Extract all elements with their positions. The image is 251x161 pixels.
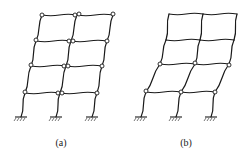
ground-hatch <box>210 118 212 121</box>
column <box>229 40 234 64</box>
column <box>166 14 169 40</box>
ground-hatch <box>143 118 145 121</box>
column <box>31 41 36 66</box>
column <box>36 15 42 41</box>
plastic-hinge-icon <box>95 91 99 95</box>
beam <box>36 40 71 42</box>
plastic-hinge-icon <box>100 64 104 68</box>
column <box>211 92 215 117</box>
plastic-hinge-icon <box>56 91 60 95</box>
plastic-hinge-icon <box>77 12 81 16</box>
column <box>200 14 203 40</box>
ground-hatch <box>172 118 174 121</box>
plastic-hinge-icon <box>29 63 33 67</box>
panel-b-story-mechanism-frame <box>134 13 237 121</box>
plastic-hinge-icon <box>144 89 148 93</box>
ground-hatch <box>23 118 25 121</box>
ground-hatch <box>169 118 171 121</box>
ground-hatch <box>175 118 177 121</box>
ground-hatch <box>55 118 57 121</box>
plastic-hinge-icon <box>111 12 115 16</box>
plastic-hinge-icon <box>179 90 183 94</box>
frame-diagram: (a) (b) <box>0 0 251 161</box>
plastic-hinge-icon <box>34 38 38 42</box>
plastic-hinge-icon <box>73 13 77 17</box>
beam <box>31 65 66 67</box>
column <box>97 66 102 93</box>
column <box>160 40 166 64</box>
column <box>195 40 200 64</box>
beam <box>66 65 102 67</box>
column <box>146 64 160 92</box>
beam <box>169 13 203 15</box>
beam <box>71 40 107 42</box>
panel-a-label: (a) <box>55 137 66 149</box>
beam <box>166 39 200 41</box>
column <box>234 14 237 40</box>
ground-hatch <box>137 118 139 121</box>
beam <box>203 13 237 15</box>
beam <box>42 14 77 16</box>
column <box>60 66 66 93</box>
column <box>107 15 113 41</box>
ground-hatch <box>17 118 19 121</box>
beam <box>195 63 229 65</box>
panel-a-beam-hinge-frame <box>14 12 115 121</box>
ground-hatch <box>91 118 93 121</box>
beam <box>77 14 113 16</box>
beam <box>160 63 195 65</box>
plastic-hinge-icon <box>62 64 66 68</box>
plastic-hinge-icon <box>40 13 44 17</box>
column <box>66 41 71 66</box>
column <box>102 41 107 66</box>
column <box>215 64 229 92</box>
plastic-hinge-icon <box>60 91 64 95</box>
ground-hatch <box>52 118 54 121</box>
ground-hatch <box>88 118 90 121</box>
plastic-hinge-icon <box>67 39 71 43</box>
beam <box>181 91 215 93</box>
column <box>141 92 146 117</box>
beam <box>25 92 60 94</box>
ground-hatch <box>49 118 51 121</box>
plastic-hinge-icon <box>71 39 75 43</box>
ground-hatch <box>94 118 96 121</box>
column <box>56 93 60 117</box>
plastic-hinge-icon <box>213 90 217 94</box>
ground-hatch <box>178 118 180 121</box>
ground-hatch <box>207 118 209 121</box>
plastic-hinge-icon <box>105 39 109 43</box>
ground-hatch <box>20 118 22 121</box>
plastic-hinge-icon <box>158 62 162 66</box>
plastic-hinge-icon <box>23 90 27 94</box>
panel-b-label: (b) <box>180 137 192 149</box>
ground-hatch <box>134 118 136 121</box>
ground-hatch <box>14 118 16 121</box>
beam <box>146 91 181 93</box>
column <box>25 66 31 93</box>
column <box>92 93 97 117</box>
beam <box>200 39 234 41</box>
column <box>176 92 181 117</box>
ground-hatch <box>85 118 87 121</box>
beam <box>60 92 97 94</box>
ground-hatch <box>58 118 60 121</box>
column <box>71 15 77 41</box>
ground-hatch <box>213 118 215 121</box>
plastic-hinge-icon <box>227 63 231 67</box>
plastic-hinge-icon <box>193 61 197 65</box>
column <box>21 93 25 117</box>
plastic-hinge-icon <box>66 64 70 68</box>
ground-hatch <box>204 118 206 121</box>
column <box>181 64 195 92</box>
ground-hatch <box>140 118 142 121</box>
